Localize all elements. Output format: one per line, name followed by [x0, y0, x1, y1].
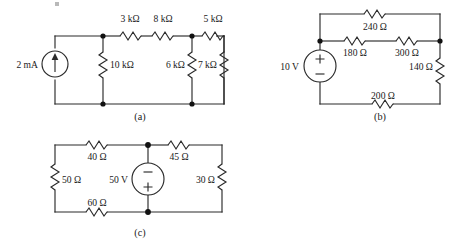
resistor-180-symbol: [344, 37, 366, 45]
resistor-45-symbol: [168, 141, 190, 149]
resistor-300-symbol: [396, 37, 418, 45]
label-voltage-source-50v: 50 V: [109, 174, 128, 185]
resistor-200-symbol: [372, 100, 394, 108]
label-resistor-8k: 8 kΩ: [153, 13, 172, 24]
label-resistor-50: 50 Ω: [62, 174, 81, 185]
resistor-50-symbol: [51, 164, 59, 190]
label-resistor-5k: 5 kΩ: [203, 13, 222, 24]
caption-circuit-c: (c): [134, 227, 145, 239]
label-resistor-240: 240 Ω: [363, 21, 387, 32]
caption-circuit-b: (b): [374, 111, 386, 123]
label-resistor-40: 40 Ω: [87, 151, 106, 162]
node-dot: [145, 209, 151, 215]
node-dot: [317, 38, 322, 43]
label-resistor-60: 60 Ω: [87, 197, 106, 208]
resistor-10k-symbol: [99, 52, 107, 78]
resistor-30-symbol: [218, 164, 226, 190]
node-dot: [100, 33, 105, 38]
label-resistor-45: 45 Ω: [169, 151, 188, 162]
resistor-8k-symbol: [152, 32, 174, 40]
label-resistor-30: 30 Ω: [196, 174, 215, 185]
node-dot: [189, 101, 194, 106]
circuit-a: 2 mA 10 kΩ 3 kΩ 8 kΩ 5 kΩ 6 kΩ 7 kΩ (a): [16, 13, 228, 123]
resistor-6k-symbol: [188, 52, 196, 78]
resistor-60-symbol: [86, 208, 108, 216]
label-resistor-140: 140 Ω: [409, 61, 433, 72]
circuit-figure-canvas: 2 mA 10 kΩ 3 kΩ 8 kΩ 5 kΩ 6 kΩ 7 kΩ (a): [0, 0, 461, 242]
label-resistor-6k: 6 kΩ: [166, 59, 185, 70]
label-current-source: 2 mA: [16, 59, 38, 70]
figure-root: 2 mA 10 kΩ 3 kΩ 8 kΩ 5 kΩ 6 kΩ 7 kΩ (a): [0, 0, 461, 242]
label-resistor-7k: 7 kΩ: [198, 59, 217, 70]
node-dot: [100, 101, 105, 106]
label-resistor-200: 200 Ω: [371, 90, 395, 101]
label-voltage-source-10v: 10 V: [280, 61, 299, 72]
label-resistor-3k: 3 kΩ: [120, 13, 139, 24]
resistor-40-symbol: [86, 141, 108, 149]
resistor-240-symbol: [364, 10, 386, 18]
node-dot: [145, 142, 151, 148]
label-resistor-10k: 10 kΩ: [110, 59, 134, 70]
node-dot: [189, 33, 194, 38]
node-dot: [437, 38, 442, 43]
caption-circuit-a: (a): [134, 111, 145, 123]
circuit-c: 40 Ω 45 Ω 50 Ω 30 Ω 60 Ω 50 V (c): [51, 141, 226, 239]
label-resistor-300: 300 Ω: [395, 47, 419, 58]
scan-speck: [55, 2, 59, 6]
resistor-140-symbol: [436, 58, 444, 84]
circuit-b: 240 Ω 180 Ω 300 Ω 140 Ω 200 Ω 10 V (b): [280, 10, 444, 123]
resistor-3k-symbol: [120, 32, 142, 40]
label-resistor-180: 180 Ω: [343, 47, 367, 58]
